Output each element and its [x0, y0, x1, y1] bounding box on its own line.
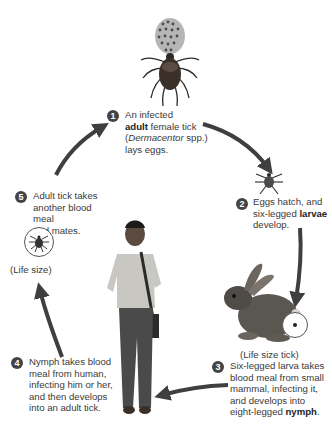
step-1-text: An infected adult female tick (Dermacent…	[125, 109, 235, 155]
step-4-badge: 4	[11, 357, 23, 369]
life-size-tick-caption: (Life size tick)	[240, 349, 299, 360]
arrow-step4-to-step5	[40, 290, 62, 357]
arrow-step3-to-step4	[162, 385, 228, 395]
step-3-badge: 3	[212, 361, 224, 373]
step-4-text: Nymph takes blood meal from human, infec…	[29, 356, 129, 414]
larva-illustration	[254, 168, 284, 196]
egg-mass-icon	[155, 18, 185, 54]
step-2-text: Eggs hatch, and six-legged larvae develo…	[253, 196, 332, 231]
step-5-badge: 5	[15, 191, 27, 203]
step-2-badge: 2	[236, 198, 248, 210]
small-tick-icon	[25, 228, 53, 256]
adult-tick-with-eggs-illustration	[135, 14, 205, 109]
step-3-text: Six-legged larva takes blood meal from s…	[230, 360, 332, 418]
tiny-tick-icon	[293, 323, 297, 327]
arrow-step5-to-step1	[56, 127, 102, 175]
life-size-adult-tick-circle	[24, 227, 54, 257]
step-1-badge: 1	[107, 110, 119, 122]
life-size-tick-circle	[282, 312, 308, 338]
life-size-caption: (Life size)	[10, 264, 52, 275]
